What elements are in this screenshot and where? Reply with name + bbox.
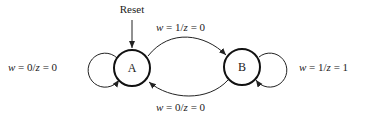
state-a: A [114,50,150,86]
arc-a-b [148,37,226,56]
transition-b-to-b: w = 1/z = 1 [256,53,348,87]
transition-b-b-label: w = 1/z = 1 [299,61,348,73]
transition-a-to-a: w = 0/z = 0 [8,53,119,87]
transition-b-to-a: w = 0/z = 0 [149,80,228,113]
state-b: B [224,49,260,85]
reset-label: Reset [120,3,144,15]
arc-b-a [149,80,228,96]
reset-arrow: Reset [120,3,144,48]
transition-a-a-label: w = 0/z = 0 [8,61,58,73]
transition-a-b-label: w = 1/z = 0 [156,21,206,33]
state-diagram: Reset w = 0/z = 0 w = 1/z = 0 w = 0/z = … [0,0,374,122]
transition-b-a-label: w = 0/z = 0 [156,101,206,113]
transition-a-to-b: w = 1/z = 0 [148,21,226,56]
state-b-label: B [238,60,246,74]
state-a-label: A [128,61,137,75]
